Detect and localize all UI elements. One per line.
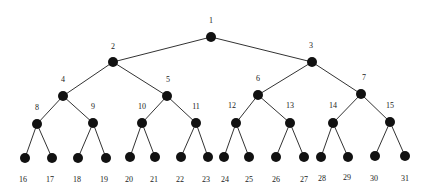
tree-node-2 bbox=[108, 57, 118, 67]
tree-node-29 bbox=[343, 152, 353, 162]
node-label: 31 bbox=[401, 174, 409, 183]
node-label: 11 bbox=[192, 102, 200, 111]
tree-node-27 bbox=[299, 152, 309, 162]
tree-node-15 bbox=[385, 117, 395, 127]
tree-node-17 bbox=[47, 153, 57, 163]
node-label: 2 bbox=[111, 42, 115, 51]
tree-edge bbox=[224, 123, 236, 157]
node-label: 21 bbox=[150, 175, 158, 184]
tree-node-11 bbox=[191, 118, 201, 128]
tree-node-24 bbox=[219, 152, 229, 162]
tree-node-6 bbox=[253, 90, 263, 100]
tree-edge bbox=[37, 124, 52, 158]
node-label: 17 bbox=[46, 175, 54, 184]
tree-edge bbox=[142, 123, 155, 157]
tree-node-19 bbox=[101, 153, 111, 163]
tree-edge bbox=[130, 123, 142, 157]
tree-edge bbox=[181, 123, 196, 157]
node-label: 12 bbox=[228, 101, 236, 110]
tree-edge bbox=[276, 123, 290, 157]
binary-tree-diagram: 1234567891011121314151617181920212223242… bbox=[0, 0, 423, 194]
tree-node-14 bbox=[328, 118, 338, 128]
node-label: 27 bbox=[300, 175, 308, 184]
tree-edge bbox=[113, 62, 167, 96]
node-label: 24 bbox=[221, 175, 229, 184]
node-label: 20 bbox=[125, 175, 133, 184]
tree-node-1 bbox=[206, 32, 216, 42]
tree-node-12 bbox=[231, 118, 241, 128]
node-label: 16 bbox=[19, 175, 27, 184]
tree-node-8 bbox=[32, 119, 42, 129]
tree-edge bbox=[333, 94, 361, 123]
tree-edge bbox=[333, 123, 348, 157]
node-label: 5 bbox=[166, 75, 170, 84]
node-label: 22 bbox=[176, 175, 184, 184]
tree-edge bbox=[290, 123, 304, 157]
tree-edge bbox=[258, 62, 312, 95]
tree-edge bbox=[63, 62, 113, 96]
tree-node-18 bbox=[73, 153, 83, 163]
tree-edge bbox=[312, 62, 361, 94]
tree-edges bbox=[25, 37, 405, 158]
tree-edge bbox=[211, 37, 312, 62]
tree-node-9 bbox=[88, 118, 98, 128]
tree-node-3 bbox=[307, 57, 317, 67]
tree-nodes bbox=[20, 32, 410, 163]
node-label: 1 bbox=[209, 16, 213, 25]
node-label: 28 bbox=[318, 174, 326, 183]
tree-node-25 bbox=[244, 152, 254, 162]
tree-edge bbox=[196, 123, 208, 157]
tree-node-7 bbox=[356, 89, 366, 99]
tree-node-16 bbox=[20, 153, 30, 163]
node-label: 6 bbox=[256, 74, 260, 83]
node-label: 9 bbox=[91, 102, 95, 111]
tree-edge bbox=[236, 95, 258, 123]
tree-node-4 bbox=[58, 91, 68, 101]
tree-node-13 bbox=[285, 118, 295, 128]
node-label: 13 bbox=[286, 101, 294, 110]
node-label: 4 bbox=[61, 75, 65, 84]
tree-node-26 bbox=[271, 152, 281, 162]
node-label: 30 bbox=[370, 174, 378, 183]
tree-edge bbox=[78, 123, 93, 158]
tree-node-23 bbox=[203, 152, 213, 162]
node-label: 8 bbox=[35, 103, 39, 112]
node-label: 3 bbox=[309, 41, 313, 50]
tree-edge bbox=[63, 96, 93, 123]
node-label: 29 bbox=[343, 173, 351, 182]
tree-node-21 bbox=[150, 152, 160, 162]
node-label: 19 bbox=[100, 175, 108, 184]
node-label: 14 bbox=[329, 101, 337, 110]
tree-edge bbox=[236, 123, 249, 157]
tree-node-10 bbox=[137, 118, 147, 128]
tree-edge bbox=[25, 124, 37, 158]
tree-edge bbox=[113, 37, 211, 62]
tree-node-5 bbox=[162, 91, 172, 101]
tree-edge bbox=[93, 123, 106, 158]
tree-node-28 bbox=[316, 152, 326, 162]
tree-edge bbox=[375, 122, 390, 156]
node-label: 25 bbox=[245, 175, 253, 184]
tree-node-22 bbox=[176, 152, 186, 162]
node-label: 26 bbox=[272, 175, 280, 184]
node-label: 15 bbox=[386, 101, 394, 110]
tree-edge bbox=[37, 96, 63, 124]
tree-edge bbox=[321, 123, 333, 157]
tree-node-20 bbox=[125, 152, 135, 162]
node-label: 10 bbox=[138, 102, 146, 111]
node-label: 7 bbox=[362, 73, 366, 82]
node-label: 23 bbox=[202, 175, 210, 184]
tree-node-30 bbox=[370, 151, 380, 161]
tree-edge bbox=[390, 122, 405, 156]
node-label: 18 bbox=[73, 175, 81, 184]
tree-node-31 bbox=[400, 151, 410, 161]
